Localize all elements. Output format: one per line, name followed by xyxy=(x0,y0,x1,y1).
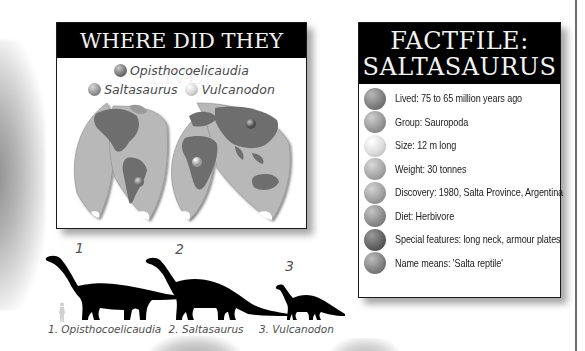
legend-item-saltasaurus: Saltasaurus xyxy=(88,82,177,97)
fact-diet: Diet: Herbivore xyxy=(364,205,560,229)
rock-texture-bottom xyxy=(330,338,400,351)
legend-label: Opisthocoelicaudia xyxy=(130,63,249,78)
fact-text: Name means: 'Salta reptile' xyxy=(395,258,503,269)
factfile-title-line1: FACTFILE: xyxy=(359,28,560,54)
fact-text: Group: Sauropoda xyxy=(395,117,468,128)
mid-ball-icon xyxy=(88,83,101,96)
saltasaurus-silhouette-icon xyxy=(144,256,289,320)
factfile-panel: FACTFILE: SALTASAURUS Lived: 75 to 65 mi… xyxy=(358,22,561,298)
rock-texture-bottom xyxy=(150,336,240,351)
caption-opisthocoelicaudia: 1. Opisthocoelicaudia xyxy=(48,323,161,335)
factfile-title: FACTFILE: SALTASAURUS xyxy=(359,23,560,84)
bullet-ball-icon xyxy=(364,229,386,251)
fact-text: Lived: 75 to 65 million years ago xyxy=(395,93,522,104)
fact-text: Size: 12 m long xyxy=(395,140,456,151)
factfile-title-line2: SALTASAURUS xyxy=(359,54,560,80)
legend-item-opisthocoelicaudia: Opisthocoelicaudia xyxy=(114,63,249,78)
dark-ball-icon xyxy=(114,64,127,77)
light-ball-icon xyxy=(185,83,198,96)
page-divider xyxy=(575,0,577,351)
world-map-icon xyxy=(67,98,297,223)
fact-discovery: Discovery: 1980, Salta Province, Argenti… xyxy=(364,181,560,205)
bullet-ball-icon xyxy=(364,135,386,157)
bullet-ball-icon xyxy=(364,182,386,204)
fact-text: Discovery: 1980, Salta Province, Argenti… xyxy=(395,187,563,198)
fact-name-means: Name means: 'Salta reptile' xyxy=(364,252,560,276)
fact-weight: Weight: 30 tonnes xyxy=(364,158,560,182)
marker-saltasaurus xyxy=(134,177,144,187)
fact-text: Special features: long neck, armour plat… xyxy=(395,234,561,245)
legend-label: Saltasaurus xyxy=(104,82,177,97)
bullet-ball-icon xyxy=(364,158,386,180)
human-scale-icon xyxy=(58,302,66,322)
world-map xyxy=(67,98,297,223)
where-did-they-live-panel: WHERE DID THEY LIVE? Opisthocoelicaudia … xyxy=(56,22,307,229)
fact-text: Weight: 30 tonnes xyxy=(395,164,466,175)
fact-special-features: Special features: long neck, armour plat… xyxy=(364,228,560,252)
fact-group: Group: Sauropoda xyxy=(364,111,560,135)
bullet-ball-icon xyxy=(364,111,386,133)
fact-list: Lived: 75 to 65 million years ago Group:… xyxy=(359,84,560,275)
marker-opisthocoelicaudia xyxy=(246,119,256,129)
map-panel-title: WHERE DID THEY LIVE? xyxy=(57,23,306,58)
legend-item-vulcanodon: Vulcanodon xyxy=(185,82,274,97)
fact-lived: Lived: 75 to 65 million years ago xyxy=(364,87,560,111)
bullet-ball-icon xyxy=(364,205,386,227)
legend-label: Vulcanodon xyxy=(201,82,274,97)
rock-texture-left xyxy=(0,40,45,310)
fact-text: Diet: Herbivore xyxy=(395,211,454,222)
caption-saltasaurus: 2. Saltasaurus xyxy=(169,323,244,335)
dinosaur-captions: 1. Opisthocoelicaudia 2. Saltasaurus 3. … xyxy=(48,323,338,335)
marker-vulcanodon xyxy=(192,157,202,167)
bullet-ball-icon xyxy=(364,252,386,274)
bullet-ball-icon xyxy=(364,88,386,110)
fact-size: Size: 12 m long xyxy=(364,134,560,158)
vulcanodon-silhouette-icon xyxy=(275,284,345,320)
caption-vulcanodon: 3. Vulcanodon xyxy=(259,323,334,335)
